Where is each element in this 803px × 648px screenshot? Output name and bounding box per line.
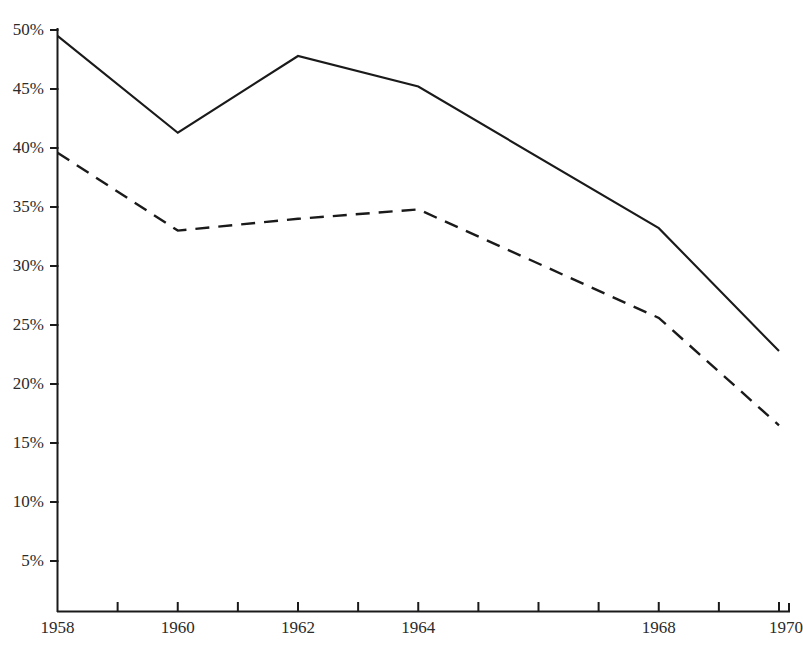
- y-axis-tick-label: 50%: [0, 21, 44, 38]
- x-axis-tick-label: 1968: [624, 619, 694, 636]
- x-axis-ticks: [118, 602, 779, 612]
- series-line-solid: [58, 36, 780, 351]
- x-axis-tick-label: 1964: [383, 619, 453, 636]
- y-axis-tick-label: 45%: [0, 80, 44, 97]
- y-axis-tick-label: 40%: [0, 139, 44, 156]
- x-axis-tick-label: 1958: [23, 619, 93, 636]
- y-axis-tick-label: 35%: [0, 198, 44, 215]
- x-axis-tick-label: 1970: [743, 619, 803, 636]
- y-axis-tick-label: 5%: [0, 552, 44, 569]
- y-axis-tick-label: 20%: [0, 375, 44, 392]
- y-axis-tick-label: 15%: [0, 434, 44, 451]
- x-axis-tick-label: 1962: [263, 619, 333, 636]
- series-line-dashed: [58, 153, 780, 426]
- y-axis-tick-label: 30%: [0, 257, 44, 274]
- x-axis-tick-label: 1960: [143, 619, 213, 636]
- y-axis-tick-label: 10%: [0, 493, 44, 510]
- y-axis-tick-label: 25%: [0, 316, 44, 333]
